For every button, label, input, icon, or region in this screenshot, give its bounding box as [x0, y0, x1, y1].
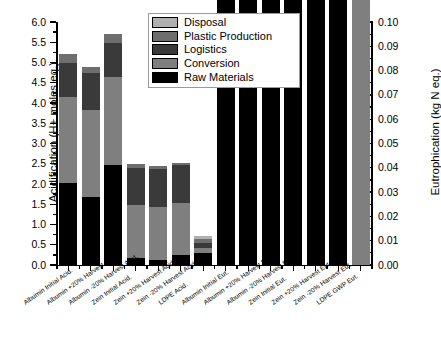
- bar-segment: [307, 0, 325, 265]
- bar-segment: [352, 0, 370, 265]
- left-tick-label: 3.0: [6, 138, 46, 148]
- right-axis-title: Eutrophication (kg N eq.): [429, 27, 441, 237]
- bar-segment: [194, 236, 212, 239]
- x-axis-labels: Albumin Initial Acid.Albumin +20% Harves…: [0, 268, 438, 342]
- left-tick-label: 0.5: [6, 239, 46, 249]
- right-tick-label: 0.10: [378, 17, 422, 27]
- right-tick-label: 0.07: [378, 89, 422, 99]
- bar-segment: [329, 0, 347, 265]
- legend-swatch: [152, 72, 178, 83]
- bar-segment: [104, 34, 122, 43]
- legend-label: Logistics: [184, 44, 227, 55]
- bar-segment: [82, 67, 100, 73]
- right-tick-label: 0.03: [378, 187, 422, 197]
- bar-segment: [59, 63, 77, 98]
- legend-item: Conversion: [152, 57, 296, 71]
- left-tick-label: 4.5: [6, 77, 46, 87]
- bar-segment: [149, 166, 167, 170]
- bar-stack: [172, 163, 190, 265]
- left-tick-label: 4.0: [6, 98, 46, 108]
- bar-segment: [59, 183, 77, 265]
- bar-stack: [104, 34, 122, 265]
- left-tick-major: [50, 244, 56, 245]
- bar-segment: [127, 164, 145, 168]
- legend-label: Disposal: [184, 17, 226, 28]
- bar-segment: [104, 43, 122, 77]
- left-tick-label: 2.5: [6, 158, 46, 168]
- bar-segment: [59, 54, 77, 62]
- bar-segment: [127, 168, 145, 205]
- left-tick-major: [50, 264, 56, 265]
- right-tick-label: 0.09: [378, 41, 422, 51]
- figure-caption: [16, 333, 436, 342]
- bar-stack: [127, 164, 145, 265]
- right-tick-label: 0.05: [378, 138, 422, 148]
- bar-segment: [194, 239, 212, 243]
- bar-stack: [307, 0, 325, 265]
- bar-segment: [82, 73, 100, 110]
- right-tick-label: 0.06: [378, 114, 422, 124]
- right-tick-label: 0.02: [378, 211, 422, 221]
- bar-segment: [172, 165, 190, 203]
- legend-item: Disposal: [152, 16, 296, 30]
- bar-stack: [352, 0, 370, 265]
- bar-segment: [127, 205, 145, 258]
- bar-segment: [172, 203, 190, 255]
- left-tick-label: 1.5: [6, 199, 46, 209]
- bar-stack: [59, 54, 77, 265]
- legend-item: Logistics: [152, 43, 296, 57]
- legend-swatch: [152, 58, 178, 69]
- bar-segment: [149, 207, 167, 260]
- legend-label: Raw Materials: [184, 72, 254, 83]
- left-tick-label: 6.0: [6, 17, 46, 27]
- legend-item: Plastic Production: [152, 30, 296, 44]
- right-tick-label: 0.08: [378, 65, 422, 75]
- bar-segment: [59, 97, 77, 183]
- bar-stack: [194, 236, 212, 265]
- left-tick-label: 5.5: [6, 37, 46, 47]
- bar-segment: [104, 165, 122, 265]
- bar-stack: [329, 0, 347, 265]
- left-tick-label: 5.0: [6, 57, 46, 67]
- bar-stack: [82, 67, 100, 265]
- left-tick-minor: [53, 254, 57, 255]
- left-tick-label: 2.0: [6, 179, 46, 189]
- legend-swatch: [152, 17, 178, 28]
- right-tick-label: 0.01: [378, 235, 422, 245]
- legend-swatch: [152, 31, 178, 42]
- legend-item: Raw Materials: [152, 70, 296, 84]
- left-tick-major: [50, 21, 56, 22]
- chart-legend: DisposalPlastic ProductionLogisticsConve…: [148, 13, 300, 88]
- right-tick-label: 0.04: [378, 162, 422, 172]
- legend-label: Plastic Production: [184, 31, 272, 42]
- bar-stack: [149, 166, 167, 265]
- left-tick-label: 3.5: [6, 118, 46, 128]
- bar-segment: [172, 163, 190, 165]
- bar-segment: [104, 77, 122, 165]
- legend-label: Conversion: [184, 58, 240, 69]
- legend-swatch: [152, 44, 178, 55]
- bar-segment: [82, 110, 100, 197]
- bar-segment: [194, 248, 212, 253]
- bar-segment: [82, 197, 100, 265]
- left-tick-label: 1.0: [6, 219, 46, 229]
- bar-segment: [194, 243, 212, 248]
- bar-segment: [149, 169, 167, 207]
